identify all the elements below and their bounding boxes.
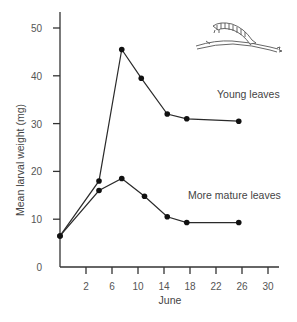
data-point	[138, 75, 144, 81]
line-chart: 01020304050 26101418222630 Mean larval w…	[0, 0, 297, 322]
x-tick-label: 22	[210, 281, 222, 292]
data-point	[142, 193, 148, 199]
x-tick-label: 26	[236, 281, 248, 292]
x-tick-label: 30	[262, 281, 274, 292]
x-tick-label: 2	[83, 281, 89, 292]
data-point	[164, 214, 170, 220]
data-point	[57, 233, 63, 239]
y-axis-label: Mean larval weight (mg)	[14, 104, 26, 216]
data-point	[119, 176, 125, 182]
y-tick-label: 20	[31, 166, 43, 177]
annotation-mature-leaves: More mature leaves	[188, 189, 281, 201]
series-young-leaves	[57, 47, 241, 239]
data-point	[119, 47, 125, 53]
x-tick-label: 6	[109, 281, 115, 292]
x-tick-label: 18	[184, 281, 196, 292]
y-tick-label: 50	[31, 23, 43, 34]
caterpillar-icon	[196, 23, 282, 52]
y-tick-label: 0	[36, 262, 42, 273]
x-tick-label: 10	[132, 281, 144, 292]
series-mature-leaves	[57, 176, 241, 239]
x-axis-ticks: 26101418222630	[83, 267, 274, 292]
annotation-young-leaves: Young leaves	[217, 88, 280, 100]
data-point	[236, 220, 242, 226]
data-point	[184, 220, 190, 226]
x-axis-label: June	[159, 294, 182, 306]
x-tick-label: 14	[158, 281, 170, 292]
y-tick-label: 40	[31, 71, 43, 82]
y-tick-label: 30	[31, 119, 43, 130]
data-point	[164, 111, 170, 117]
data-point	[96, 188, 102, 194]
axes	[60, 12, 279, 267]
data-point	[96, 178, 102, 184]
data-point	[184, 116, 190, 122]
y-tick-label: 10	[31, 214, 43, 225]
data-point	[236, 118, 242, 124]
y-axis-ticks: 01020304050	[31, 23, 60, 273]
series-lines	[57, 47, 241, 239]
